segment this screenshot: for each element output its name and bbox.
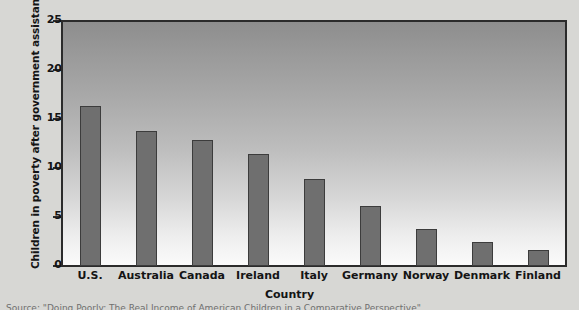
y-axis-tick-label: 20: [16, 62, 62, 75]
bar: [416, 229, 437, 266]
y-axis-ticks: 0510152025: [0, 0, 62, 310]
x-axis-title: Country: [0, 288, 579, 301]
x-axis-tick-label: Finland: [488, 269, 579, 282]
bar: [304, 179, 325, 266]
bar-series: [62, 21, 566, 266]
bar: [136, 131, 157, 266]
y-axis-tick-label: 25: [16, 13, 62, 26]
bar: [80, 106, 101, 266]
bar: [472, 242, 493, 267]
y-axis-tick-label: 15: [16, 111, 62, 124]
bar: [360, 206, 381, 266]
bar: [248, 154, 269, 266]
bar: [528, 250, 549, 266]
bar: [192, 140, 213, 266]
y-axis-tick-label: 5: [16, 209, 62, 222]
source-note: Source: "Doing Poorly: The Real Income o…: [6, 303, 426, 310]
y-axis-tick-label: 10: [16, 160, 62, 173]
bar-chart-figure: Children in poverty after government ass…: [0, 0, 579, 310]
